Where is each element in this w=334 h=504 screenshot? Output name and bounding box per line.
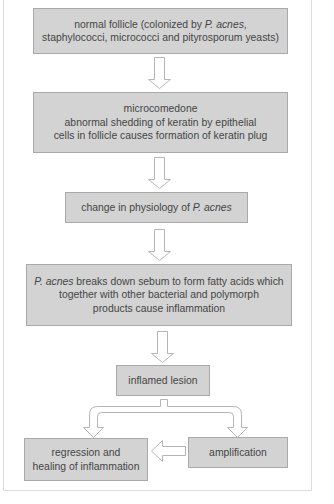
node-physiology-change: change in physiology of P. acnes xyxy=(65,192,248,223)
node-text: together with other bacterial and polymo… xyxy=(34,288,283,301)
down-arrow-icon xyxy=(149,230,171,261)
node-amplification: amplification xyxy=(188,437,288,468)
down-arrow-icon xyxy=(149,158,171,189)
branch-arrow-icon xyxy=(84,400,248,438)
species-name: P. acnes xyxy=(205,19,244,30)
left-arrow-icon xyxy=(152,441,186,462)
node-text: cells in follicle causes formation of ke… xyxy=(54,129,268,142)
arrows-layer xyxy=(0,0,334,504)
down-arrow-icon xyxy=(152,332,174,363)
node-text: products cause inflammation xyxy=(34,302,283,315)
node-title: microcomedone xyxy=(54,102,268,115)
node-text: amplification xyxy=(209,446,267,459)
node-text: , xyxy=(244,19,247,30)
species-name: P. acnes xyxy=(193,202,232,213)
node-text: staphylococci, micrococci and pityrospor… xyxy=(42,32,279,43)
node-text: healing of inflammation xyxy=(33,460,140,473)
node-inflamed-lesion: inflamed lesion xyxy=(116,365,210,396)
node-sebum-breakdown: P. acnes breaks down sebum to form fatty… xyxy=(26,264,292,326)
node-text: regression and xyxy=(33,446,140,459)
node-text: abnormal shedding of keratin by epitheli… xyxy=(54,116,268,129)
node-regression: regression and healing of inflammation xyxy=(24,438,148,481)
node-text: inflamed lesion xyxy=(128,374,197,387)
node-microcomedone: microcomedone abnormal shedding of kerat… xyxy=(33,92,288,153)
down-arrow-icon xyxy=(149,58,171,89)
node-normal-follicle: normal follicle (colonized by P. acnes, … xyxy=(33,8,288,54)
node-text: change in physiology of xyxy=(81,202,193,213)
node-text: normal follicle (colonized by xyxy=(74,19,205,30)
node-text: breaks down sebum to form fatty acids wh… xyxy=(73,276,283,287)
species-name: P. acnes xyxy=(34,276,73,287)
